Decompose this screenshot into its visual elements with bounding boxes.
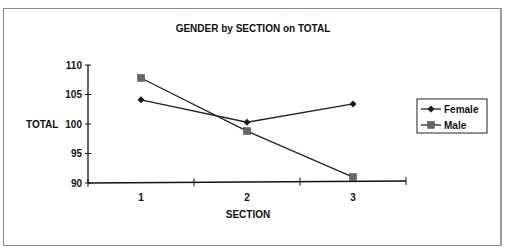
data-point-female xyxy=(350,100,357,107)
chart-title: GENDER by SECTION on TOTAL xyxy=(176,23,331,34)
data-point-male xyxy=(138,74,145,81)
x-axis-line xyxy=(88,181,406,183)
y-tick-label: 110 xyxy=(66,60,83,71)
y-tick-label: 105 xyxy=(65,89,82,100)
x-tick-label: 2 xyxy=(244,192,250,203)
legend: FemaleMale xyxy=(417,99,487,133)
series-female xyxy=(138,96,357,125)
x-tick-label: 1 xyxy=(138,192,144,203)
y-tick-label: 90 xyxy=(71,178,83,189)
series-male xyxy=(138,74,357,180)
y-tick-label: 100 xyxy=(65,119,82,130)
line-chart: GENDER by SECTION on TOTAL TOTAL SECTION… xyxy=(0,0,506,252)
legend-label-male: Male xyxy=(444,120,467,131)
legend-marker-male xyxy=(428,122,435,129)
x-tick-label: 3 xyxy=(350,192,356,203)
legend-label-female: Female xyxy=(444,104,479,115)
y-axis-label: TOTAL xyxy=(26,119,58,130)
data-point-female xyxy=(244,119,251,126)
y-tick-label: 95 xyxy=(71,148,83,159)
data-point-male xyxy=(350,174,357,181)
data-point-female xyxy=(138,96,145,103)
x-axis-label: SECTION xyxy=(226,209,270,220)
data-point-male xyxy=(244,128,251,135)
